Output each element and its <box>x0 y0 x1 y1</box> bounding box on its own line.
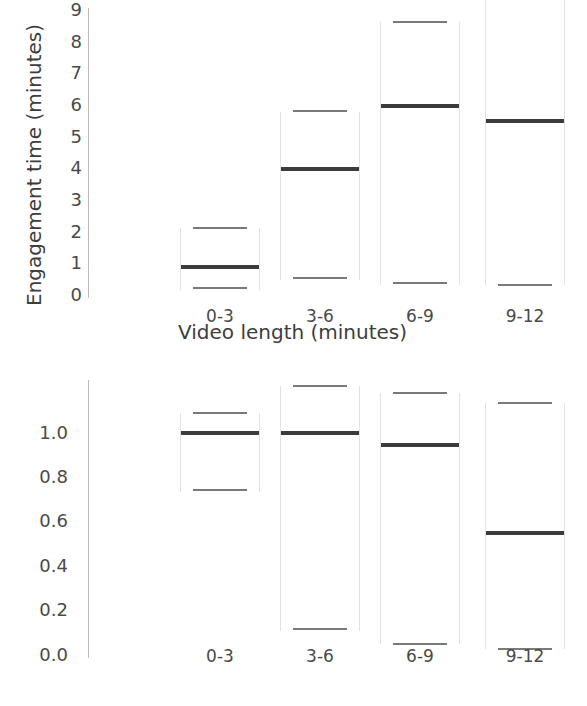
y-axis-spine-bottom <box>88 380 89 658</box>
y-tick-label: 9 <box>71 1 82 19</box>
y-tick-label: 7 <box>71 64 82 82</box>
median-bar <box>281 167 359 171</box>
x-tick-label: 6-9 <box>406 308 434 325</box>
whisker-line <box>459 393 460 644</box>
lower-cap <box>193 287 247 289</box>
median-bar <box>181 265 259 269</box>
y-tick-label: 0.0 <box>39 646 68 664</box>
whisker-line <box>180 228 181 290</box>
y-axis-spine-top <box>88 8 89 298</box>
figure: Engagement time (minutes) 9 8 7 6 5 4 3 … <box>0 0 587 706</box>
x-tick-label: 9-12 <box>506 308 545 325</box>
lower-cap <box>293 628 347 630</box>
upper-cap <box>498 402 552 404</box>
chart-panel-bottom: Engagement time (normalized) 1.0 0.8 0.6… <box>0 350 587 706</box>
whisker-line <box>280 112 281 280</box>
median-bar <box>181 431 259 435</box>
upper-cap <box>393 21 447 23</box>
upper-cap <box>393 392 447 394</box>
x-axis-label-top: Video length (minutes) <box>178 320 407 344</box>
box-group-0-3[interactable] <box>180 0 260 300</box>
whisker-line <box>380 22 381 285</box>
upper-cap <box>293 385 347 387</box>
x-tick-label: 9-12 <box>506 648 545 665</box>
y-tick-label: 2 <box>71 223 82 241</box>
whisker-line <box>380 393 381 644</box>
box-group-3-6[interactable] <box>280 350 360 665</box>
median-bar <box>381 443 459 447</box>
whisker-line <box>485 0 486 285</box>
box-group-6-9[interactable] <box>380 0 460 300</box>
plot-area-bottom <box>90 350 587 665</box>
whisker-line <box>485 403 486 649</box>
whisker-line <box>280 386 281 631</box>
lower-cap <box>193 489 247 491</box>
upper-cap <box>193 227 247 229</box>
median-bar <box>486 119 564 123</box>
median-bar <box>486 531 564 535</box>
lower-cap <box>293 277 347 279</box>
x-tick-label: 0-3 <box>206 648 234 665</box>
whisker-line <box>564 403 565 649</box>
y-tick-label: 6 <box>71 96 82 114</box>
lower-cap <box>393 282 447 284</box>
whisker-line <box>259 413 260 492</box>
y-tick-label: 5 <box>71 128 82 146</box>
whisker-line <box>459 22 460 285</box>
box-group-9-12[interactable] <box>485 0 565 300</box>
whisker-line <box>180 413 181 492</box>
whisker-line <box>359 112 360 280</box>
y-tick-label: 1.0 <box>39 424 68 442</box>
lower-cap <box>498 284 552 286</box>
y-axis-ticks-bottom: 1.0 0.8 0.6 0.4 0.2 0.0 <box>26 350 68 706</box>
upper-cap <box>293 110 347 112</box>
x-tick-label: 6-9 <box>406 648 434 665</box>
y-tick-label: 0.4 <box>39 557 68 575</box>
plot-area-top <box>90 0 587 300</box>
y-tick-label: 3 <box>71 191 82 209</box>
whisker-line <box>359 386 360 631</box>
y-tick-label: 1 <box>71 254 82 272</box>
y-tick-label: 8 <box>71 33 82 51</box>
chart-panel-top: Engagement time (minutes) 9 8 7 6 5 4 3 … <box>0 0 587 350</box>
x-tick-label: 3-6 <box>306 648 334 665</box>
y-tick-label: 0.8 <box>39 468 68 486</box>
whisker-line <box>564 0 565 285</box>
y-tick-label: 4 <box>71 159 82 177</box>
y-axis-ticks-top: 9 8 7 6 5 4 3 2 1 0 <box>40 0 82 350</box>
box-group-3-6[interactable] <box>280 0 360 300</box>
y-tick-label: 0.6 <box>39 512 68 530</box>
lower-cap <box>393 643 447 645</box>
y-tick-label: 0 <box>71 286 82 304</box>
box-group-9-12[interactable] <box>485 350 565 665</box>
upper-cap <box>193 412 247 414</box>
box-group-0-3[interactable] <box>180 350 260 665</box>
box-group-6-9[interactable] <box>380 350 460 665</box>
whisker-line <box>259 228 260 290</box>
median-bar <box>281 431 359 435</box>
y-tick-label: 0.2 <box>39 601 68 619</box>
median-bar <box>381 104 459 108</box>
